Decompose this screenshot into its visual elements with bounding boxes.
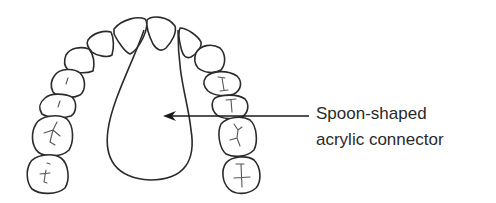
tooth-premolar1-left: [51, 69, 84, 97]
tooth-canine-right: [195, 45, 225, 72]
acrylic-connector-outline: [107, 30, 192, 180]
tooth-premolar2-right: [212, 95, 248, 119]
tooth-central-incisor-right: [147, 17, 176, 50]
connector-label-line2: acrylic connector: [316, 127, 444, 153]
tooth-premolar2-left: [40, 94, 76, 118]
tooth-molar2-left: [27, 155, 68, 194]
connector-label: Spoon-shaped acrylic connector: [316, 101, 444, 153]
connector-label-line1: Spoon-shaped: [316, 101, 444, 127]
tooth-premolar1-right: [204, 72, 241, 96]
tooth-molar1-left: [32, 116, 72, 156]
